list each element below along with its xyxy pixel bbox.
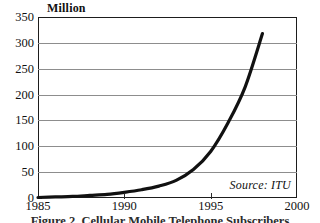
x-tick-label-1995: 1995 — [190, 200, 232, 213]
plot-area: Source: ITU — [38, 17, 297, 198]
figure-chart-cellular-subscribers: Million 050100150200250300350 Source: IT… — [0, 0, 320, 223]
y-axis-tick-labels: 050100150200250300350 — [0, 17, 34, 198]
y-axis-unit-label: Million — [47, 1, 86, 15]
x-tick-label-1985: 1985 — [17, 200, 59, 213]
data-curve-svg — [38, 17, 297, 198]
y-tick-label-350: 350 — [0, 11, 34, 23]
x-tick-label-1990: 1990 — [103, 200, 145, 213]
y-tick-label-300: 300 — [0, 37, 34, 49]
source-note: Source: ITU — [230, 179, 291, 192]
y-tick-label-150: 150 — [0, 114, 34, 126]
figure-caption: Figure 2. Cellular Mobile Telephone Subs… — [0, 214, 320, 223]
series-line-cellular-mobile-subscribers — [38, 34, 262, 198]
y-tick-label-200: 200 — [0, 89, 34, 101]
y-tick-label-250: 250 — [0, 63, 34, 75]
y-tick-label-50: 50 — [0, 166, 34, 178]
x-tick-label-2000: 2000 — [276, 200, 318, 213]
x-tick-mark-1990 — [124, 193, 125, 199]
y-tick-label-100: 100 — [0, 140, 34, 152]
x-tick-mark-1995 — [211, 193, 212, 199]
